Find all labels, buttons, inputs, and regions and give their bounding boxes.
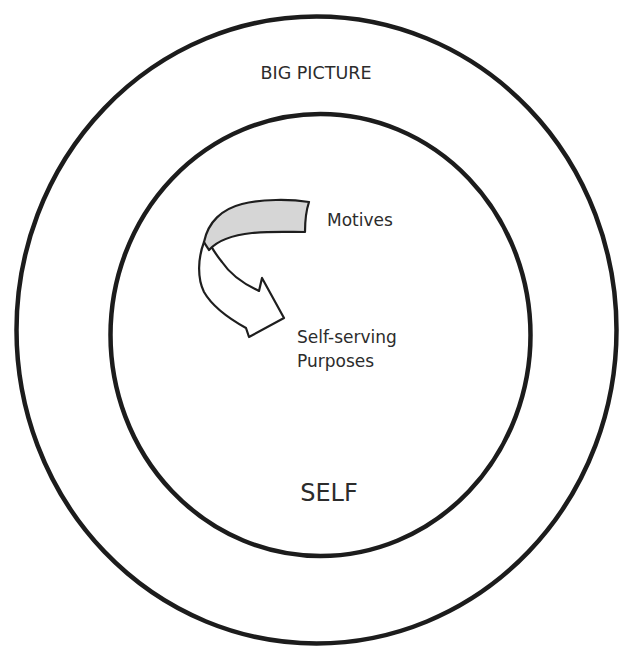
arrow-band bbox=[204, 200, 309, 250]
self-label: SELF bbox=[300, 479, 358, 507]
self-big-picture-diagram: BIG PICTURE SELF Motives Self-serving Pu… bbox=[0, 0, 620, 662]
self-serving-label: Self-serving bbox=[297, 327, 397, 347]
arrow-body bbox=[199, 240, 284, 337]
curved-arrow-icon bbox=[199, 200, 309, 337]
purposes-label: Purposes bbox=[297, 351, 374, 371]
motives-label: Motives bbox=[327, 210, 393, 230]
big-picture-label: BIG PICTURE bbox=[261, 63, 372, 83]
